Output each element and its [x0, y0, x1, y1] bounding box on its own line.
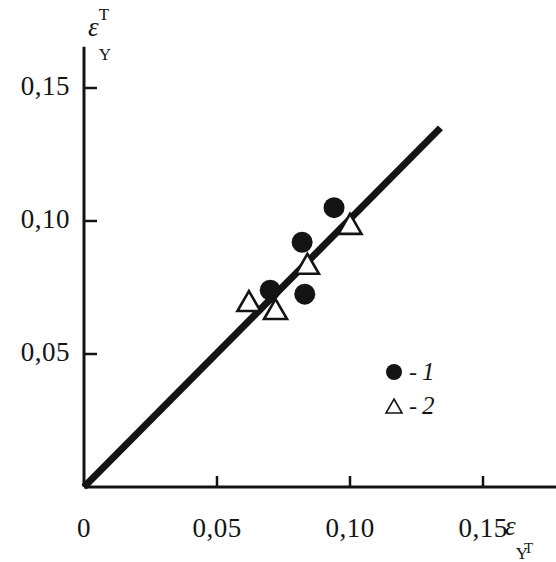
legend-label: 2 — [422, 392, 435, 420]
y-axis-title: εTY — [88, 12, 117, 43]
reference-line — [84, 128, 440, 487]
x-axis-title: εY — [505, 511, 534, 542]
data-point-circle — [324, 197, 345, 218]
legend-dash: - — [409, 393, 417, 420]
x-tick-label: 0,05 — [157, 513, 277, 544]
x-tick-label: 0,10 — [290, 513, 410, 544]
legend: - 1 - 2 — [383, 355, 435, 423]
reference-line-group — [84, 128, 440, 487]
y-axis-title-subscript: Y — [99, 45, 111, 65]
y-tick-label: 0,10 — [0, 204, 70, 235]
data-point-circle — [294, 284, 315, 305]
x-axis-title-base: ε — [505, 511, 516, 541]
y-axis-title-superscript: T — [99, 5, 109, 25]
plot-canvas — [0, 0, 556, 562]
y-axis-title-base: ε — [88, 12, 99, 42]
legend-label: 1 — [422, 358, 435, 386]
legend-item-2: - 2 — [383, 389, 435, 423]
axes-group — [84, 47, 556, 487]
data-point-circle — [260, 280, 281, 301]
chart-figure: 0,05 0,10 0,15 0 0,05 0,10 0,15 εTY εY T… — [0, 0, 556, 562]
x-tick-label: 0 — [24, 513, 144, 544]
legend-dash: - — [409, 359, 417, 386]
data-point-triangle — [237, 291, 260, 311]
filled-circle-icon — [383, 361, 405, 383]
y-tick-label: 0,15 — [0, 71, 70, 102]
open-triangle-icon — [383, 395, 405, 417]
x-axis-title-second-subscript: T — [524, 540, 533, 557]
data-point-circle — [292, 232, 313, 253]
data-points-group — [237, 197, 361, 319]
y-tick-label: 0,05 — [0, 337, 70, 368]
legend-item-1: - 1 — [383, 355, 435, 389]
